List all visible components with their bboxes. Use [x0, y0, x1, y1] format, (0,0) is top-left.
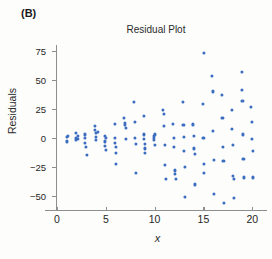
- y-tick: [52, 138, 56, 139]
- data-point: [115, 162, 118, 165]
- data-point: [133, 120, 136, 123]
- data-point: [213, 192, 216, 195]
- data-point: [232, 177, 235, 180]
- data-point: [203, 171, 206, 174]
- data-point: [143, 147, 146, 150]
- data-point: [251, 149, 254, 152]
- data-point: [231, 143, 234, 146]
- data-point: [183, 149, 186, 152]
- data-point: [201, 103, 204, 106]
- y-tick: [52, 80, 56, 81]
- data-point: [104, 136, 107, 139]
- data-point: [241, 133, 244, 136]
- data-point: [154, 133, 157, 136]
- data-point: [192, 124, 195, 127]
- y-tick-label: −50: [2, 191, 46, 202]
- data-point: [251, 138, 254, 141]
- data-point: [250, 105, 253, 108]
- y-tick-label: 75: [2, 45, 46, 56]
- data-point: [211, 90, 214, 93]
- data-point: [84, 136, 87, 139]
- data-point: [103, 140, 106, 143]
- data-point: [85, 146, 88, 149]
- data-point: [242, 176, 245, 179]
- data-point: [124, 126, 127, 129]
- data-point: [230, 109, 233, 112]
- data-point: [104, 148, 107, 151]
- data-point: [202, 136, 205, 139]
- data-point: [233, 197, 236, 200]
- data-point: [193, 147, 196, 150]
- data-point: [135, 171, 138, 174]
- data-point: [202, 52, 205, 55]
- y-tick-label: 25: [2, 103, 46, 114]
- data-point: [163, 143, 166, 146]
- data-point: [114, 152, 117, 155]
- x-tick-label: 5: [91, 213, 121, 225]
- data-point: [134, 142, 137, 145]
- data-point: [95, 139, 98, 142]
- data-point: [221, 146, 224, 149]
- data-point: [114, 146, 117, 149]
- data-point: [240, 70, 243, 73]
- data-point: [172, 136, 175, 139]
- data-point: [242, 157, 245, 160]
- data-point: [123, 117, 126, 120]
- y-tick-label: −25: [2, 162, 46, 173]
- data-point: [65, 140, 68, 143]
- plot-area: [57, 45, 262, 210]
- data-point: [212, 129, 215, 132]
- data-point: [193, 153, 196, 156]
- data-point: [174, 177, 177, 180]
- data-point: [222, 201, 225, 204]
- data-point: [133, 100, 136, 103]
- x-axis-label: x: [57, 232, 258, 244]
- chart-title: Residual Plot: [0, 24, 272, 35]
- data-point: [240, 89, 243, 92]
- data-point: [153, 143, 156, 146]
- data-point: [192, 134, 195, 137]
- data-point: [211, 75, 214, 78]
- data-point: [241, 99, 244, 102]
- x-tick-label: 15: [188, 213, 218, 225]
- y-tick: [52, 109, 56, 110]
- data-point: [212, 158, 215, 161]
- data-point: [222, 160, 225, 163]
- data-point: [85, 154, 88, 157]
- data-point: [114, 141, 117, 144]
- data-point: [162, 112, 165, 115]
- y-tick: [52, 167, 56, 168]
- data-point: [113, 122, 116, 125]
- residual-plot-figure: (B) Residual Plot Residuals 7550250−25−5…: [0, 0, 272, 259]
- data-point: [84, 141, 87, 144]
- data-point: [231, 127, 234, 130]
- data-point: [173, 146, 176, 149]
- data-point: [76, 138, 79, 141]
- data-point: [172, 122, 175, 125]
- data-point: [194, 183, 197, 186]
- data-point: [143, 142, 146, 145]
- data-point: [184, 196, 187, 199]
- data-point: [164, 163, 167, 166]
- data-point: [181, 100, 184, 103]
- data-point: [182, 135, 185, 138]
- data-point: [153, 139, 156, 142]
- y-tick: [52, 51, 56, 52]
- data-point: [252, 176, 255, 179]
- data-point: [164, 177, 167, 180]
- x-tick-label: 20: [237, 213, 267, 225]
- data-point: [163, 125, 166, 128]
- data-point: [250, 120, 253, 123]
- data-point: [183, 165, 186, 168]
- data-point: [182, 124, 185, 127]
- data-point: [125, 138, 128, 141]
- data-point: [144, 152, 147, 155]
- data-point: [142, 114, 145, 117]
- y-tick: [52, 196, 56, 197]
- data-point: [143, 138, 146, 141]
- data-point: [66, 134, 69, 137]
- data-point: [202, 162, 205, 165]
- x-axis-line: [45, 210, 267, 211]
- panel-label: (B): [21, 7, 36, 19]
- data-point: [96, 131, 99, 134]
